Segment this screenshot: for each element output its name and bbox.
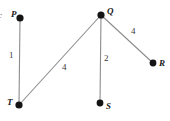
node-t	[15, 101, 22, 108]
edge-weight-p-t: 1	[9, 51, 14, 60]
node-p	[16, 14, 23, 21]
edge-q-s	[100, 15, 101, 103]
node-label-s: S	[106, 102, 111, 111]
node-label-t: T	[7, 98, 13, 107]
edge-weight-q-r: 4	[131, 27, 136, 36]
node-label-q: Q	[107, 7, 114, 16]
graph-canvas	[0, 0, 170, 121]
node-r	[150, 60, 157, 67]
node-label-p: P	[11, 10, 17, 19]
node-label-r: R	[159, 59, 165, 68]
node-s	[97, 100, 104, 107]
edge-t-q	[19, 15, 101, 105]
edge-weight-q-s: 2	[104, 54, 109, 63]
edge-p-t	[19, 18, 20, 105]
node-q	[97, 11, 104, 18]
edge-weight-t-q: 4	[62, 63, 67, 72]
edge-q-r	[101, 15, 153, 63]
graph-figure: c P Q R S T 1 4 2 4	[0, 0, 170, 121]
